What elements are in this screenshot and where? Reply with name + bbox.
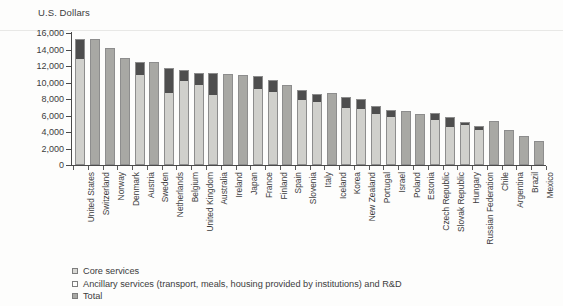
bar-segment-total [121, 59, 129, 164]
x-axis-tick [236, 166, 237, 170]
y-axis-tick-label: 12,000 [2, 61, 64, 71]
x-axis-tick [132, 166, 133, 170]
x-axis-tick [487, 166, 488, 170]
bar-segment-ancillary [342, 98, 350, 108]
bar-segment-total [416, 115, 424, 164]
bar-segment-total [106, 49, 114, 164]
y-axis-tick-label: 0 [2, 160, 64, 170]
y-axis-tick-label: 6,000 [2, 111, 64, 121]
x-axis-tick [339, 166, 340, 170]
bar-segment-core [431, 120, 439, 164]
x-axis-tick [117, 166, 118, 170]
y-axis-tick [66, 50, 71, 51]
bar-segment-core [475, 130, 483, 164]
y-axis-tick [66, 149, 71, 150]
x-axis-tick [472, 166, 473, 170]
bar-segment-core [313, 102, 321, 164]
bar-segment-ancillary [357, 100, 365, 108]
bar-segment-core [298, 100, 306, 164]
x-axis-tick [369, 166, 370, 170]
bar-segment-ancillary [136, 63, 144, 75]
x-axis-tick [531, 166, 532, 170]
bar-segment-core [461, 125, 469, 164]
y-axis-tick-label: 4,000 [2, 127, 64, 137]
x-axis-tick [221, 166, 222, 170]
bar-segment-ancillary [446, 118, 454, 127]
x-axis-tick [413, 166, 414, 170]
bar-segment-ancillary [254, 77, 262, 89]
x-axis-tick [280, 166, 281, 170]
bar-segment-total [402, 112, 410, 164]
bar-segment-total [150, 63, 158, 164]
x-axis-tick [310, 166, 311, 170]
bar-segment-core [136, 75, 144, 164]
bar-segment-core [372, 114, 380, 164]
bar-segment-ancillary [269, 81, 277, 92]
bar-segment-ancillary [209, 74, 217, 95]
bar-segment-ancillary [372, 107, 380, 114]
legend-label: Total [83, 291, 102, 301]
x-axis-tick [73, 166, 74, 170]
bar-segment-ancillary [165, 69, 173, 92]
x-axis-tick [88, 166, 89, 170]
x-axis-tick [265, 166, 266, 170]
bar-segment-core [269, 92, 277, 164]
bar-segment-total [520, 137, 528, 164]
x-axis-tick [383, 166, 384, 170]
bar-segment-core [254, 89, 262, 164]
chart-legend: Core servicesAncillary services (transpo… [72, 265, 402, 303]
legend-label: Ancillary services (transport, meals, ho… [83, 279, 402, 289]
y-axis-tick [66, 99, 71, 100]
legend-item: Core services [72, 265, 402, 278]
legend-swatch-total [72, 293, 78, 299]
x-axis-tick [502, 166, 503, 170]
bar-segment-core [387, 117, 395, 164]
bar-segment-core [209, 95, 217, 164]
x-axis-tick [443, 166, 444, 170]
x-axis-tick [324, 166, 325, 170]
bar-segment-core [342, 108, 350, 164]
legend-swatch-ancillary [72, 281, 78, 287]
x-axis-tick [162, 166, 163, 170]
bar-segment-core [180, 81, 188, 164]
bar-segment-core [195, 85, 203, 164]
x-axis-tick [147, 166, 148, 170]
chart-figure: U.S. Dollars 16,00014,00012,00010,0008,0… [0, 0, 563, 306]
legend-item: Ancillary services (transport, meals, ho… [72, 278, 402, 291]
y-axis-tick [66, 66, 71, 67]
x-axis-category-label: Mexico [543, 145, 553, 172]
y-axis-tick [66, 116, 71, 117]
bar-segment-core [165, 93, 173, 164]
bar-segment-total [239, 76, 247, 164]
scan-artifact-line [0, 30, 563, 31]
x-axis-tick [354, 166, 355, 170]
x-axis-tick [457, 166, 458, 170]
y-axis-tick [66, 132, 71, 133]
bar-segment-total [224, 75, 232, 164]
x-axis-tick [428, 166, 429, 170]
y-axis-tick [66, 33, 71, 34]
x-axis-tick [206, 166, 207, 170]
y-axis-tick-label: 8,000 [2, 94, 64, 104]
y-axis-labels: 16,00014,00012,00010,0008,0006,0004,0002… [0, 0, 64, 306]
bar-segment-ancillary [298, 91, 306, 100]
bar-segment-total [490, 122, 498, 164]
bar-segment-core [357, 109, 365, 164]
bar-segment-ancillary [180, 71, 188, 81]
legend-item: Total [72, 290, 402, 303]
y-axis-tick-label: 16,000 [2, 28, 64, 38]
x-axis-tick [250, 166, 251, 170]
x-axis-tick [103, 166, 104, 170]
y-axis-tick [66, 83, 71, 84]
chart-bar [312, 94, 322, 165]
y-axis-tick-label: 2,000 [2, 144, 64, 154]
bar-segment-total [505, 131, 513, 164]
x-axis-tick [398, 166, 399, 170]
legend-label: Core services [83, 266, 139, 276]
y-axis-tick-label: 10,000 [2, 78, 64, 88]
legend-swatch-core [72, 268, 78, 274]
x-axis-tick [191, 166, 192, 170]
x-axis-tick [295, 166, 296, 170]
bar-segment-ancillary [195, 74, 203, 85]
x-axis-tick [516, 166, 517, 170]
